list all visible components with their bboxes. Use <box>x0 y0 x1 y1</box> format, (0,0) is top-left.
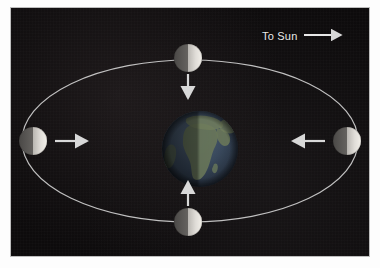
earth <box>162 111 238 187</box>
diagram-root: To Sun <box>0 0 380 268</box>
diagram-canvas <box>11 8 369 256</box>
earth-limb-shading <box>162 111 238 187</box>
moon-bottom <box>174 208 202 236</box>
moon-top <box>174 44 202 72</box>
moon-right <box>333 127 361 155</box>
to-sun-label: To Sun <box>262 30 297 42</box>
space-panel: To Sun <box>11 8 369 256</box>
moon-left <box>19 127 47 155</box>
